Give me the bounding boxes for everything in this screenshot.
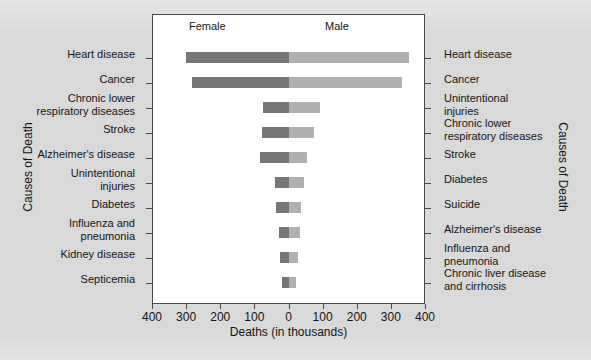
x-tick-label: 200 [347, 310, 367, 324]
bar-row [153, 177, 424, 188]
bar-male [289, 252, 298, 263]
x-tick [323, 304, 324, 309]
y-tick-left [146, 108, 152, 109]
x-tick-label: 400 [415, 310, 435, 324]
x-tick-label: 100 [313, 310, 333, 324]
category-label-right: Influenza and pneumonia [434, 242, 591, 267]
plot-area: Female Male [152, 14, 425, 304]
y-tick-right [425, 158, 431, 159]
y-tick-left [146, 183, 152, 184]
bar-female [275, 177, 289, 188]
x-tick [425, 304, 426, 309]
category-labels-left: Heart diseaseCancerChronic lower respira… [0, 14, 145, 304]
category-label-right: Alzheimer's disease [434, 223, 591, 236]
y-tick-left [146, 208, 152, 209]
x-tick-label: 200 [210, 310, 230, 324]
category-label-left: Chronic lower respiratory diseases [0, 92, 145, 117]
category-label-right: Suicide [434, 198, 591, 211]
category-label-left: Stroke [0, 123, 145, 136]
y-tick-right [425, 233, 431, 234]
x-tick [391, 304, 392, 309]
bar-female [280, 252, 288, 263]
bar-female [260, 152, 289, 163]
category-label-left: Septicemia [0, 273, 145, 286]
x-tick-label: 300 [176, 310, 196, 324]
category-label-right: Stroke [434, 148, 591, 161]
y-tick-right [425, 58, 431, 59]
bar-male [289, 202, 301, 213]
bar-female [263, 102, 289, 113]
y-tick-left [146, 58, 152, 59]
bar-female [282, 277, 289, 288]
category-label-left: Influenza and pneumonia [0, 217, 145, 242]
bar-row [153, 252, 424, 263]
x-tick [289, 304, 290, 309]
y-tick-left [146, 258, 152, 259]
x-tick [254, 304, 255, 309]
x-tick-label: 0 [285, 310, 292, 324]
y-tick-left [146, 283, 152, 284]
bar-row [153, 277, 424, 288]
category-label-right: Cancer [434, 73, 591, 86]
bar-male [289, 102, 320, 113]
y-tick-left [146, 233, 152, 234]
category-label-left: Heart disease [0, 48, 145, 61]
panel-title-male: Male [325, 20, 349, 32]
category-label-right: Chronic liver disease and cirrhosis [434, 267, 591, 292]
bar-male [289, 52, 409, 63]
y-tick-right [425, 183, 431, 184]
x-tick [186, 304, 187, 309]
bar-female [279, 227, 289, 238]
bar-row [153, 202, 424, 213]
bar-row [153, 227, 424, 238]
y-tick-right [425, 108, 431, 109]
x-tick-label: 400 [142, 310, 162, 324]
bar-male [289, 77, 402, 88]
bar-female [262, 127, 288, 138]
bar-female [276, 202, 288, 213]
x-tick-label: 300 [381, 310, 401, 324]
category-label-left: Kidney disease [0, 248, 145, 261]
bar-female [192, 77, 288, 88]
chart-figure: Causes of Death Causes of Death Heart di… [0, 0, 591, 360]
category-label-left: Diabetes [0, 198, 145, 211]
bar-female [186, 52, 289, 63]
y-tick-left [146, 83, 152, 84]
category-labels-right: Heart diseaseCancerUnintentional injurie… [434, 14, 584, 304]
y-tick-right [425, 133, 431, 134]
bar-row [153, 77, 424, 88]
category-label-right: Unintentional injuries [434, 92, 591, 117]
bar-male [289, 152, 308, 163]
category-label-left: Cancer [0, 73, 145, 86]
bar-row [153, 102, 424, 113]
category-label-right: Heart disease [434, 48, 591, 61]
bar-male [289, 177, 304, 188]
category-label-right: Diabetes [434, 173, 591, 186]
bar-male [289, 277, 296, 288]
bar-row [153, 127, 424, 138]
category-label-right: Chronic lower respiratory diseases [434, 117, 591, 142]
x-tick [357, 304, 358, 309]
category-label-left: Alzheimer's disease [0, 148, 145, 161]
y-tick-right [425, 208, 431, 209]
x-axis-title: Deaths (in thousands) [152, 325, 425, 339]
bar-row [153, 152, 424, 163]
bar-male [289, 127, 314, 138]
y-tick-right [425, 258, 431, 259]
y-tick-left [146, 158, 152, 159]
x-tick [220, 304, 221, 309]
category-label-left: Unintentional injuries [0, 167, 145, 192]
bar-male [289, 227, 301, 238]
bar-row [153, 52, 424, 63]
y-tick-left [146, 133, 152, 134]
x-tick-label: 100 [244, 310, 264, 324]
panel-title-female: Female [189, 20, 226, 32]
y-tick-right [425, 283, 431, 284]
x-tick [152, 304, 153, 309]
y-tick-right [425, 83, 431, 84]
